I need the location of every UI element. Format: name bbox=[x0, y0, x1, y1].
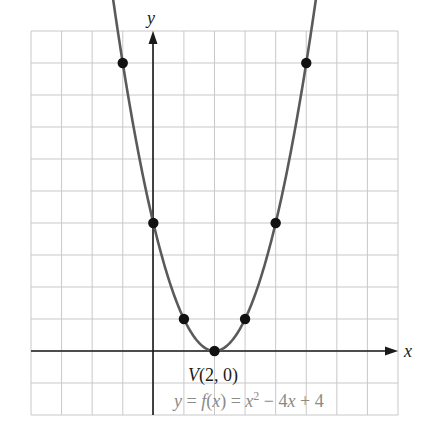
data-point bbox=[301, 58, 311, 68]
data-point bbox=[118, 58, 128, 68]
data-point bbox=[270, 218, 280, 228]
x-axis-label: x bbox=[403, 341, 412, 361]
y-axis-arrow-icon bbox=[149, 31, 158, 44]
grid bbox=[31, 31, 398, 415]
equation-label: y = f(x) = x2 − 4x + 4 bbox=[172, 389, 324, 412]
y-axis-label: y bbox=[145, 8, 155, 28]
data-point bbox=[240, 314, 250, 324]
vertex-label: V(2, 0) bbox=[188, 365, 238, 386]
data-point bbox=[209, 346, 219, 356]
parabola-chart: x y V(2, 0) y = f(x) = x2 − 4x + 4 bbox=[0, 0, 423, 427]
x-axis-arrow-icon bbox=[385, 347, 398, 356]
data-point bbox=[148, 218, 158, 228]
data-point bbox=[179, 314, 189, 324]
